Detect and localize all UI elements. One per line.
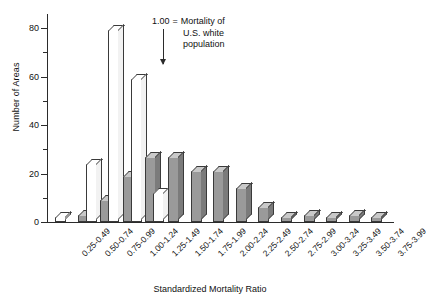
bar-side-face <box>178 151 184 220</box>
bar-side-face <box>246 182 252 220</box>
y-tick-label: 60 <box>11 73 39 82</box>
bar-open-1.25-1.49 <box>153 193 164 222</box>
annotation-value: 1.00 <box>152 16 170 26</box>
y-tick-minor <box>43 101 47 102</box>
y-tick-minor <box>43 198 47 199</box>
y-tick-major <box>41 125 47 126</box>
bar-shaded-3.25-3.49 <box>326 217 337 222</box>
y-tick-major <box>41 174 47 175</box>
bar-shaded-2.25-2.49 <box>236 188 247 222</box>
bar-shaded-2.50-2.74 <box>258 207 269 222</box>
y-tick-minor <box>43 149 47 150</box>
bar-shaded-3.00-3.24 <box>304 215 315 222</box>
bar-open-0.25-0.49 <box>55 217 66 222</box>
bar-shaded-1.75-1.99 <box>191 171 202 222</box>
annotation-equals: = <box>170 16 181 28</box>
y-tick-label: 0 <box>11 218 39 227</box>
bar-side-face <box>223 165 229 220</box>
y-tick-label: 40 <box>11 121 39 130</box>
bar-shaded-1.50-1.74 <box>168 157 179 222</box>
bar-open-0.50-0.74 <box>86 164 97 222</box>
y-axis-title: Number of Areas <box>11 37 21 157</box>
y-tick-major <box>41 28 47 29</box>
y-tick-major <box>41 222 47 223</box>
bar-side-face <box>268 201 274 220</box>
y-tick-major <box>41 77 47 78</box>
annotation-arrow-icon <box>163 29 164 64</box>
bar-shaded-3.50-3.74 <box>349 215 360 222</box>
bar-shaded-2.75-2.99 <box>281 217 292 222</box>
bar-shaded-3.75-3.99 <box>371 217 382 222</box>
y-tick-minor <box>43 52 47 53</box>
y-tick-label: 20 <box>11 170 39 179</box>
y-tick-label: 80 <box>11 24 39 33</box>
x-axis-line <box>47 222 394 223</box>
annotation-line-1: Mortality of <box>181 16 225 26</box>
bar-shaded-2.00-2.24 <box>213 171 224 222</box>
bar-open-0.75-0.99 <box>108 30 119 222</box>
y-axis-line <box>47 14 48 223</box>
bar-side-face <box>201 165 207 220</box>
bar-open-1.00-1.24 <box>131 79 142 222</box>
x-axis-title: Standardized Mortality Ratio <box>80 284 340 294</box>
